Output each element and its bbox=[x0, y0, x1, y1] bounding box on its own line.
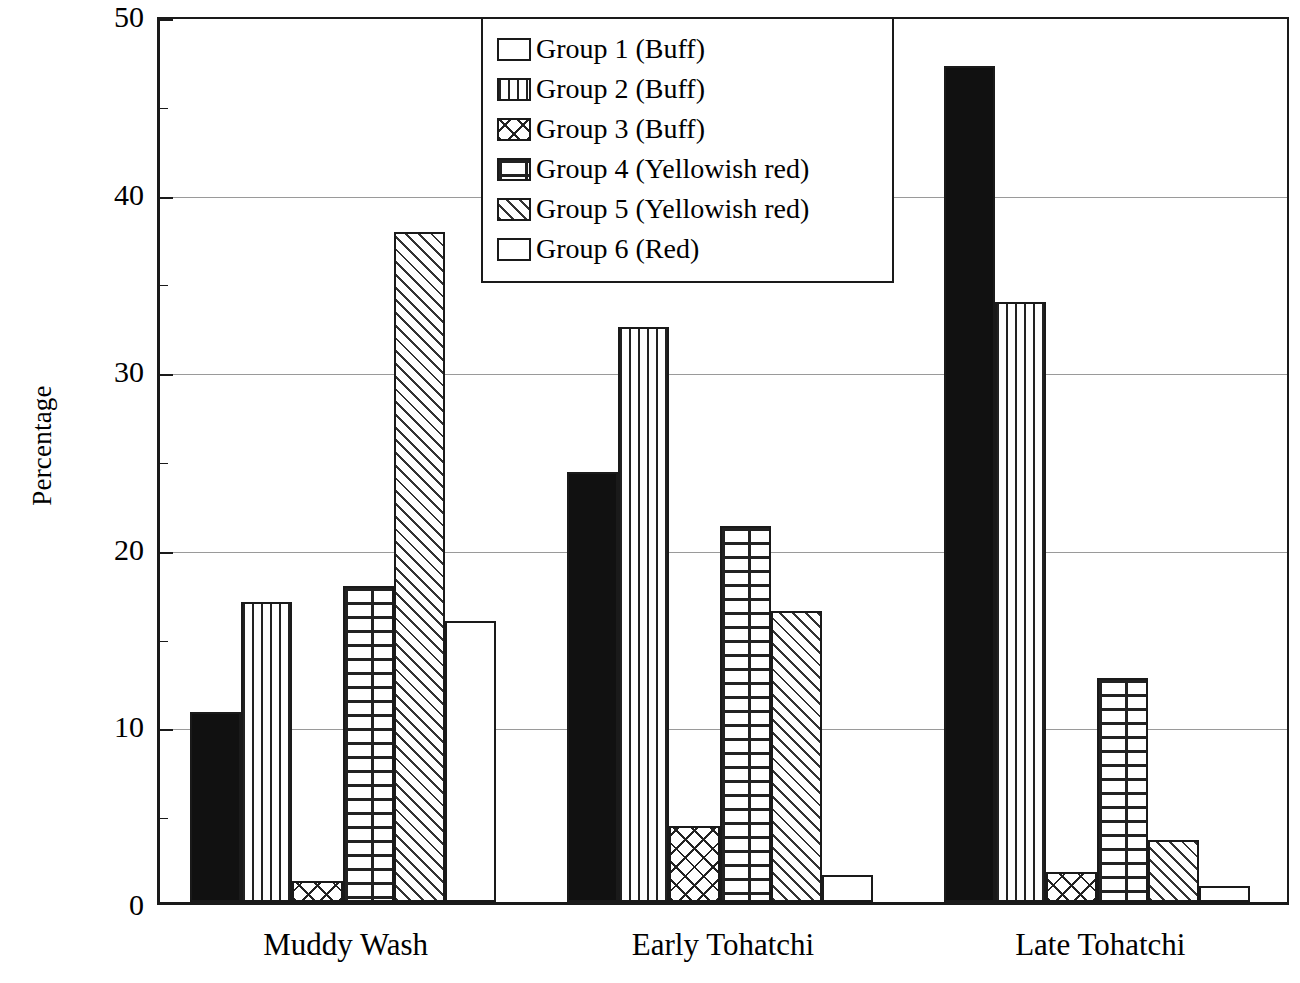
y-axis-tick-label: 50 bbox=[40, 2, 144, 32]
legend-swatch-icon bbox=[497, 158, 531, 181]
x-axis-tick-labels: Muddy WashEarly TohatchiLate Tohatchi bbox=[157, 920, 1289, 975]
legend-item: Group 1 (Buff) bbox=[497, 29, 878, 69]
bar bbox=[394, 232, 445, 902]
legend-item-label: Group 1 (Buff) bbox=[536, 35, 705, 63]
bar bbox=[343, 586, 394, 902]
bar bbox=[1199, 886, 1250, 902]
legend-item: Group 5 (Yellowish red) bbox=[497, 189, 878, 229]
legend-swatch-icon bbox=[497, 198, 531, 221]
bar bbox=[944, 66, 995, 902]
legend-item: Group 2 (Buff) bbox=[497, 69, 878, 109]
bar bbox=[1148, 840, 1199, 902]
legend-swatch-icon bbox=[497, 38, 531, 61]
x-axis-tick-label: Early Tohatchi bbox=[534, 920, 911, 975]
bar-group bbox=[915, 19, 1292, 902]
legend-item-label: Group 4 (Yellowish red) bbox=[536, 155, 809, 183]
y-axis-tick-label: 40 bbox=[40, 180, 144, 210]
legend-swatch-icon bbox=[497, 238, 531, 261]
bar bbox=[822, 875, 873, 902]
x-axis-tick-label: Late Tohatchi bbox=[912, 920, 1289, 975]
bar bbox=[1046, 872, 1097, 902]
y-axis-tick-label: 10 bbox=[40, 712, 144, 742]
bar-chart: Percentage 50403020100 Group 1 (Buff)Gro… bbox=[0, 0, 1300, 983]
y-axis-tick-label: 30 bbox=[40, 357, 144, 387]
y-axis-tick-label: 0 bbox=[40, 890, 144, 920]
bar bbox=[1097, 678, 1148, 902]
legend: Group 1 (Buff)Group 2 (Buff)Group 3 (Buf… bbox=[481, 17, 894, 283]
legend-item: Group 6 (Red) bbox=[497, 229, 878, 269]
legend-item: Group 4 (Yellowish red) bbox=[497, 149, 878, 189]
legend-item: Group 3 (Buff) bbox=[497, 109, 878, 149]
x-axis-tick-label: Muddy Wash bbox=[157, 920, 534, 975]
bar bbox=[995, 302, 1046, 902]
bar bbox=[720, 526, 771, 903]
bar bbox=[292, 881, 343, 902]
bar bbox=[669, 826, 720, 902]
y-axis-tick-labels: 50403020100 bbox=[40, 0, 144, 983]
bar bbox=[771, 611, 822, 902]
bar bbox=[241, 602, 292, 902]
legend-item-label: Group 6 (Red) bbox=[536, 235, 699, 263]
bar bbox=[618, 327, 669, 902]
legend-item-label: Group 3 (Buff) bbox=[536, 115, 705, 143]
legend-swatch-icon bbox=[497, 78, 531, 101]
legend-item-label: Group 5 (Yellowish red) bbox=[536, 195, 809, 223]
bar bbox=[445, 621, 496, 902]
legend-item-label: Group 2 (Buff) bbox=[536, 75, 705, 103]
legend-swatch-icon bbox=[497, 118, 531, 141]
y-axis-tick-label: 20 bbox=[40, 535, 144, 565]
bar bbox=[190, 712, 241, 902]
bar bbox=[567, 472, 618, 902]
